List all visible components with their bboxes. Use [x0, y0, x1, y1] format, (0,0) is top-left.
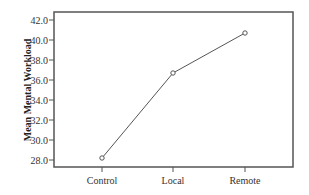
x-axis-ticks: ControlLocalRemote: [87, 167, 261, 186]
y-tick-label: 38.0: [31, 55, 49, 66]
x-tick-label: Control: [87, 175, 118, 186]
series-line: [102, 33, 245, 158]
data-markers: [100, 31, 247, 160]
data-point-marker: [243, 31, 247, 35]
data-point-marker: [171, 71, 175, 75]
data-point-marker: [100, 156, 104, 160]
x-tick-label: Local: [162, 175, 185, 186]
y-axis-ticks: 28.030.032.034.036.038.040.042.0: [31, 15, 55, 166]
y-tick-label: 40.0: [31, 35, 49, 46]
y-tick-label: 36.0: [31, 75, 49, 86]
y-tick-label: 42.0: [31, 15, 49, 26]
y-tick-label: 34.0: [31, 95, 49, 106]
plot-frame: [54, 12, 293, 167]
y-tick-label: 32.0: [31, 115, 49, 126]
y-tick-label: 30.0: [31, 135, 49, 146]
x-tick-label: Remote: [229, 175, 261, 186]
y-tick-label: 28.0: [31, 155, 49, 166]
line-chart: 28.030.032.034.036.038.040.042.0 Control…: [0, 0, 309, 195]
